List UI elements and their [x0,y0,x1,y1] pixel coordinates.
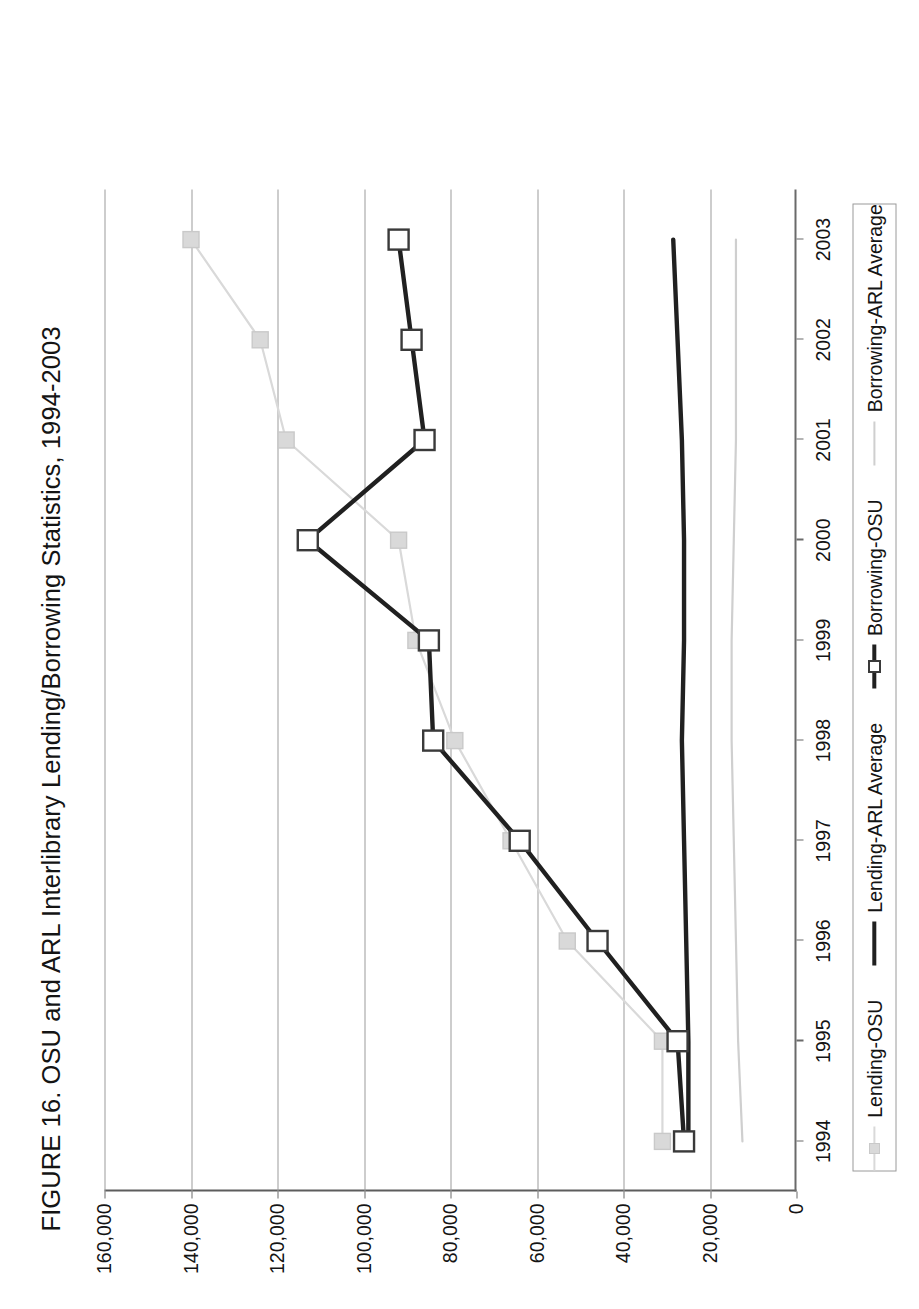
legend-swatch-icon [866,1126,882,1170]
y-axis-tick [796,1191,797,1198]
data-point-marker [446,732,462,748]
data-point-marker [390,532,406,548]
x-axis-tick [796,739,803,740]
x-tick-label: 1997 [811,795,834,885]
data-point-marker [252,331,268,347]
data-point-marker [388,229,408,249]
y-tick-label: 160,000 [93,1203,116,1309]
legend-entry[interactable]: Borrowing-ARL Average [863,204,886,465]
x-axis-tick [796,939,803,940]
x-axis-tick [796,1140,803,1141]
legend-entry[interactable]: Borrowing-OSU [863,499,886,689]
data-point-marker [418,630,438,650]
y-tick-label: 100,000 [352,1203,375,1309]
x-tick-label: 1999 [811,595,834,685]
x-axis-tick [796,338,803,339]
y-axis-tick [710,1191,711,1198]
y-tick-label: 0 [785,1203,808,1309]
series-line [673,239,688,1141]
y-axis-tick [623,1191,624,1198]
x-tick-label: 2002 [811,294,834,384]
series-line [731,239,742,1141]
legend-label: Lending-OSU [863,999,886,1117]
chart-title: FIGURE 16. OSU and ARL Interlibrary Lend… [36,326,65,1231]
y-axis-tick [277,1191,278,1198]
data-point-marker [674,1131,694,1151]
y-tick-label: 140,000 [179,1203,202,1309]
data-point-marker [423,730,443,750]
series-plot [104,189,796,1191]
legend-label: Borrowing-OSU [863,499,886,636]
series-line [307,239,683,1141]
data-point-marker [414,430,434,450]
y-tick-label: 60,000 [525,1203,548,1309]
legend-swatch-icon [866,421,882,465]
data-point-marker [278,432,294,448]
x-tick-label: 1995 [811,996,834,1086]
y-tick-label: 40,000 [612,1203,635,1309]
figure-root: FIGURE 16. OSU and ARL Interlibrary Lend… [0,0,919,1309]
x-axis-tick [796,238,803,239]
y-axis-tick [191,1191,192,1198]
legend-label: Lending-ARL Average [863,722,886,912]
legend-label: Borrowing-ARL Average [863,204,886,412]
data-point-marker [559,933,575,949]
data-point-marker [667,1031,687,1051]
x-tick-label: 1998 [811,695,834,785]
x-axis-tick [796,438,803,439]
x-tick-label: 2001 [811,395,834,485]
y-axis-tick [104,1191,105,1198]
legend-swatch-icon [866,644,882,688]
legend-entry[interactable]: Lending-OSU [863,999,886,1170]
data-point-marker [587,931,607,951]
y-axis-tick [537,1191,538,1198]
legend-entry[interactable]: Lending-ARL Average [863,722,886,965]
y-axis-tick [450,1191,451,1198]
data-point-marker [654,1133,670,1149]
legend-swatch-icon [866,921,882,965]
data-point-marker [401,329,421,349]
x-axis-tick [796,839,803,840]
x-tick-label: 2000 [811,495,834,585]
x-tick-label: 2003 [811,194,834,284]
series-line [191,239,662,1141]
y-axis-tick [364,1191,365,1198]
x-axis-tick [796,538,803,539]
x-axis-tick [796,639,803,640]
y-tick-label: 20,000 [698,1203,721,1309]
y-tick-label: 120,000 [266,1203,289,1309]
y-tick-label: 80,000 [439,1203,462,1309]
data-point-marker [183,231,199,247]
chart-legend: Lending-OSULending-ARL AverageBorrowing-… [852,203,896,1171]
x-axis-tick [796,1039,803,1040]
x-tick-label: 1996 [811,896,834,986]
x-tick-label: 1994 [811,1096,834,1186]
plot-area: 020,00040,00060,00080,000100,000120,0001… [104,189,796,1191]
data-point-marker [297,530,317,550]
data-point-marker [509,830,529,850]
